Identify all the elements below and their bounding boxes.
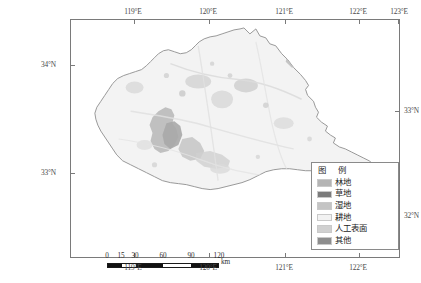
legend-item-wetland[interactable]: 湿地 xyxy=(317,200,398,212)
scale-tick-4: 90 xyxy=(187,252,194,260)
lon-label-bottom-120e: 120°E xyxy=(199,263,217,272)
lat-label-right-33n: 33°N xyxy=(404,106,419,115)
legend-swatch-grassland xyxy=(317,191,332,199)
scale-tick-1: 15 xyxy=(117,252,124,260)
legend-label-grassland: 草地 xyxy=(335,189,351,199)
legend-swatch-wetland xyxy=(317,202,332,210)
scale-tick-0: 0 xyxy=(105,252,109,260)
legend-item-other[interactable]: 其他 xyxy=(317,235,398,247)
patch-forest-a xyxy=(179,90,185,96)
scale-bar-segment-3 xyxy=(163,264,191,267)
scale-tick-3: 60 xyxy=(159,252,166,260)
lat-label-right-32n: 32°N xyxy=(404,211,419,220)
legend-label-other: 其他 xyxy=(335,236,351,246)
patch-forest-b xyxy=(164,73,169,78)
patch-builtup-west xyxy=(126,81,144,93)
tick-mark-top-4 xyxy=(398,20,399,24)
patch-builtup-central-b xyxy=(211,90,233,108)
lon-label-top-123e: 123°E xyxy=(390,7,408,16)
map-figure: 0 15 30 60 90 120 km 119°E 120°E 121°E 1… xyxy=(0,0,421,283)
lon-label-top-119e: 119°E xyxy=(124,7,141,16)
lat-label-left-33n: 33°N xyxy=(41,168,56,177)
tick-mark-left-0 xyxy=(71,65,75,66)
legend-item-grassland[interactable]: 草地 xyxy=(317,189,398,201)
patch-forest-g xyxy=(256,155,260,159)
legend-swatch-artificial-surface xyxy=(317,225,332,233)
lon-label-bottom-121e: 121°E xyxy=(275,263,293,272)
lon-label-top-121e: 121°E xyxy=(275,7,293,16)
patch-builtup-east xyxy=(274,117,294,129)
patch-forest-e xyxy=(307,137,312,142)
legend-label-artificial-surface: 人工表面 xyxy=(335,224,367,234)
tick-mark-bottom-2 xyxy=(285,253,286,257)
legend-item-artificial-surface[interactable]: 人工表面 xyxy=(317,223,398,235)
tick-mark-top-0 xyxy=(134,20,135,24)
scale-tick-2: 30 xyxy=(131,252,138,260)
legend-label-cropland: 耕地 xyxy=(335,213,351,223)
scale-bar-segment-0 xyxy=(108,264,122,267)
patch-forest-f xyxy=(152,162,157,167)
scale-bar-unit-label: km xyxy=(221,258,230,266)
tick-mark-bottom-3 xyxy=(359,253,360,257)
legend-swatch-forest xyxy=(317,179,332,187)
legend-title: 图 例 xyxy=(318,165,398,176)
tick-mark-top-1 xyxy=(209,20,210,24)
map-legend[interactable]: 图 例 林地 草地 湿地 耕地 人工表面 其他 xyxy=(311,162,399,250)
legend-swatch-other xyxy=(317,237,332,245)
patch-forest-c xyxy=(228,73,233,78)
lon-label-top-122e: 122°E xyxy=(349,7,367,16)
patch-forest-h xyxy=(210,61,214,65)
legend-item-cropland[interactable]: 耕地 xyxy=(317,212,398,224)
tick-mark-left-1 xyxy=(71,173,75,174)
lon-label-bottom-122e: 122°E xyxy=(349,263,367,272)
lon-label-bottom-119e: 119°E xyxy=(124,263,141,272)
lat-label-left-34n: 34°N xyxy=(41,60,56,69)
tick-mark-top-2 xyxy=(285,20,286,24)
tick-mark-top-3 xyxy=(359,20,360,24)
legend-label-wetland: 湿地 xyxy=(335,201,351,211)
scale-bar-labels: 0 15 30 60 90 120 xyxy=(107,252,219,262)
legend-item-forest[interactable]: 林地 xyxy=(317,177,398,189)
legend-swatch-cropland xyxy=(317,214,332,222)
patch-forest-d xyxy=(263,103,269,109)
tick-mark-right-0 xyxy=(395,111,399,112)
legend-label-forest: 林地 xyxy=(335,178,351,188)
lon-label-top-120e: 120°E xyxy=(199,7,217,16)
patch-builtup-central-a xyxy=(185,75,211,89)
